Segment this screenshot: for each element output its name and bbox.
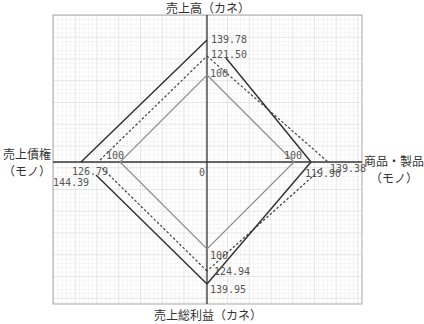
svg-text:100: 100 [210, 68, 228, 79]
origin-label: 0 [199, 167, 205, 178]
svg-text:139.78: 139.78 [211, 34, 247, 45]
axis-label-left-line1: 売上債権 [0, 147, 54, 164]
axis-label-left-line2: （モノ） [0, 164, 54, 181]
axis-label-left: 売上債権 （モノ） [0, 147, 54, 181]
radar-chart: 139.78 121.50 100 100 119.90 139.38 100 … [0, 0, 424, 324]
svg-text:126.79: 126.79 [72, 166, 108, 177]
svg-text:100: 100 [106, 150, 124, 161]
svg-text:124.94: 124.94 [214, 266, 250, 277]
svg-text:139.38: 139.38 [330, 163, 366, 174]
svg-text:100: 100 [284, 150, 302, 161]
axis-label-right: 商品・製品 （モノ） [364, 154, 424, 188]
axis-label-top: 売上高（カネ） [150, 0, 266, 16]
svg-text:144.39: 144.39 [53, 177, 89, 188]
axis-label-bottom: 売上総利益（カネ） [140, 306, 276, 323]
svg-text:121.50: 121.50 [211, 49, 247, 60]
axis-label-right-line2: （モノ） [364, 171, 424, 188]
axis-label-right-line1: 商品・製品 [364, 154, 424, 171]
svg-text:100: 100 [210, 250, 228, 261]
svg-text:139.95: 139.95 [210, 284, 246, 295]
